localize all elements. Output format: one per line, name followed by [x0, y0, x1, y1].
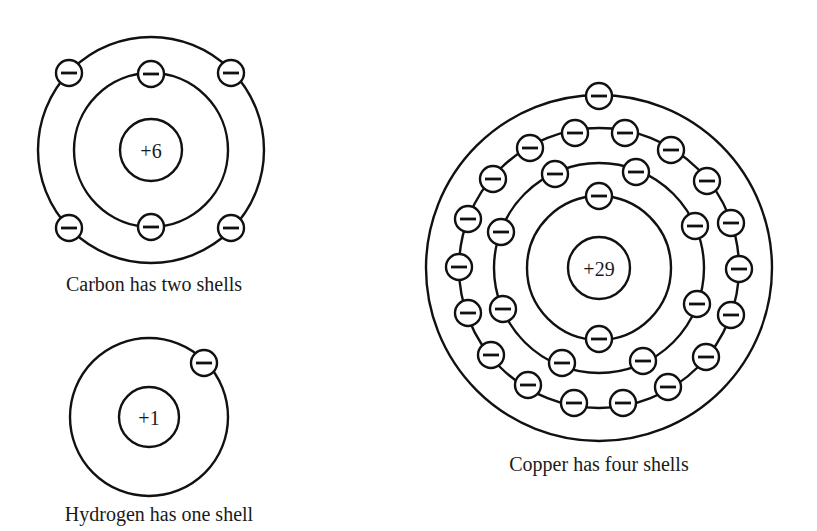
electron-icon	[488, 219, 514, 245]
electron-icon	[623, 159, 649, 185]
electron-icon	[682, 213, 708, 239]
electron-icon	[515, 372, 541, 398]
diagram-canvas: +6 Carbon has two shells +1 Hydrogen has…	[0, 0, 817, 531]
electron-icon	[455, 300, 481, 326]
electron-icon	[480, 166, 506, 192]
electron-icon	[191, 350, 217, 376]
electron-icon	[630, 348, 656, 374]
electron-icon	[684, 291, 710, 317]
copper-caption: Copper has four shells	[509, 453, 689, 476]
electron-icon	[138, 214, 164, 240]
electron-icon	[56, 215, 82, 241]
electron-icon	[56, 60, 82, 86]
electron-icon	[218, 60, 244, 86]
electron-icon	[658, 137, 684, 163]
electron-icon	[655, 374, 681, 400]
electron-icon	[478, 342, 504, 368]
atom-copper: +29 Copper has four shells	[426, 83, 772, 476]
atom-hydrogen: +1 Hydrogen has one shell	[65, 338, 254, 526]
electron-icon	[455, 206, 481, 232]
electron-icon	[218, 215, 244, 241]
electron-icon	[490, 296, 516, 322]
electron-icon	[446, 254, 472, 280]
hydrogen-caption: Hydrogen has one shell	[65, 503, 254, 526]
electron-icon	[549, 350, 575, 376]
electron-icon	[612, 120, 638, 146]
carbon-caption: Carbon has two shells	[66, 273, 242, 295]
electron-icon	[517, 135, 543, 161]
copper-nucleus-label: +29	[583, 258, 614, 280]
electron-icon	[726, 256, 752, 282]
carbon-nucleus-label: +6	[140, 140, 161, 162]
hydrogen-nucleus-label: +1	[138, 407, 159, 429]
electron-icon	[694, 168, 720, 194]
electron-icon	[562, 120, 588, 146]
atom-carbon: +6 Carbon has two shells	[38, 37, 264, 295]
electron-icon	[586, 83, 612, 109]
electron-icon	[138, 61, 164, 87]
electron-icon	[718, 210, 744, 236]
electron-icon	[693, 344, 719, 370]
atom-shells-diagram: +6 Carbon has two shells +1 Hydrogen has…	[0, 0, 817, 531]
electron-icon	[586, 183, 612, 209]
electron-icon	[610, 390, 636, 416]
electron-icon	[561, 390, 587, 416]
electron-icon	[542, 161, 568, 187]
electron-icon	[718, 302, 744, 328]
electron-icon	[586, 326, 612, 352]
